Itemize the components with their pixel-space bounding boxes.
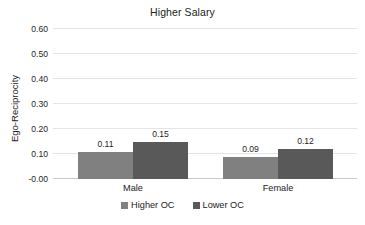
chart-title: Higher Salary: [0, 6, 365, 18]
legend-swatch-icon: [121, 202, 128, 209]
bar-value-label: 0.09: [223, 144, 278, 154]
bar-chart: Higher Salary Ego-Reciprocity 0.60 0.50 …: [0, 0, 365, 225]
bar-male-lower-oc[interactable]: [133, 142, 188, 180]
legend-item-lower-oc[interactable]: Lower OC: [193, 200, 244, 210]
gridline: [53, 53, 357, 54]
gridline: [53, 28, 357, 29]
y-tick-label: 0.40: [12, 74, 48, 84]
bar-male-higher-oc[interactable]: [78, 152, 133, 180]
y-tick-label: 0.60: [12, 24, 48, 34]
chart-legend: Higher OC Lower OC: [0, 200, 365, 210]
y-tick-label: 0.20: [12, 124, 48, 134]
y-tick-label: 0.30: [12, 99, 48, 109]
y-tick-label: 0.10: [12, 149, 48, 159]
legend-swatch-icon: [193, 202, 200, 209]
bar-value-label: 0.12: [278, 136, 333, 146]
legend-item-higher-oc[interactable]: Higher OC: [121, 200, 174, 210]
y-tick-label: -0.00: [12, 174, 48, 184]
bar-value-label: 0.11: [78, 139, 133, 149]
gridline: [53, 103, 357, 104]
legend-label: Higher OC: [131, 200, 174, 210]
bar-female-lower-oc[interactable]: [278, 149, 333, 179]
x-category-label-female: Female: [223, 183, 333, 193]
gridline: [53, 78, 357, 79]
legend-label: Lower OC: [203, 200, 244, 210]
plot-area: 0.11 0.15 0.09 0.12: [53, 28, 357, 179]
x-category-label-male: Male: [78, 183, 188, 193]
bar-female-higher-oc[interactable]: [223, 157, 278, 180]
y-tick-label: 0.50: [12, 49, 48, 59]
bar-value-label: 0.15: [133, 129, 188, 139]
gridline: [53, 128, 357, 129]
